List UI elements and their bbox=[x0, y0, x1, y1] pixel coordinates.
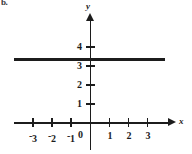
x-tick-mark bbox=[128, 118, 130, 127]
y-tick-mark bbox=[86, 65, 95, 67]
x-tick-label: 3 bbox=[141, 131, 155, 141]
x-tick-label: 1 bbox=[103, 131, 117, 141]
x-axis-arrow-icon bbox=[168, 118, 176, 126]
y-tick-mark bbox=[86, 46, 95, 48]
x-tick-label: -3 bbox=[26, 131, 40, 144]
x-axis-label: x bbox=[179, 116, 184, 126]
x-tick-label-text: 3 bbox=[32, 133, 37, 144]
x-tick-label-text: 2 bbox=[51, 133, 56, 144]
coordinate-plane-figure: b. x y -3 -2 -1 1 2 3 0 1 2 3 4 bbox=[0, 0, 192, 154]
y-axis-arrow-icon bbox=[86, 13, 94, 21]
x-tick-mark bbox=[109, 118, 111, 127]
y-tick-mark bbox=[86, 84, 95, 86]
y-tick-label: 3 bbox=[70, 61, 82, 71]
y-tick-label: 2 bbox=[70, 80, 82, 90]
x-tick-mark bbox=[70, 118, 72, 127]
x-tick-label-text: 1 bbox=[70, 133, 75, 144]
x-tick-mark bbox=[32, 118, 34, 127]
y-axis-label: y bbox=[86, 1, 90, 11]
plotted-horizontal-line bbox=[14, 58, 165, 61]
x-tick-mark bbox=[147, 118, 149, 127]
x-tick-label: -2 bbox=[45, 131, 59, 144]
figure-part-label: b. bbox=[1, 0, 12, 5]
y-tick-label: 1 bbox=[70, 99, 82, 109]
y-tick-label: 4 bbox=[70, 42, 82, 52]
x-tick-mark bbox=[51, 118, 53, 127]
x-tick-label: 2 bbox=[122, 131, 136, 141]
y-tick-mark bbox=[86, 103, 95, 105]
x-tick-label: -1 bbox=[64, 131, 78, 144]
origin-label: 0 bbox=[78, 130, 83, 140]
